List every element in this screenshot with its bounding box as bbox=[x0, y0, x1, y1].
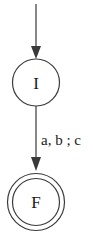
state-I-label: I bbox=[33, 74, 39, 93]
automaton-diagram: I a, b ; c F bbox=[0, 0, 93, 241]
initial-arrow bbox=[31, 4, 41, 59]
state-I[interactable]: I bbox=[13, 59, 60, 106]
state-F-label: F bbox=[31, 193, 40, 212]
transition-I-F[interactable]: a, b ; c bbox=[31, 106, 81, 171]
state-F[interactable]: F bbox=[8, 174, 65, 231]
transition-label: a, b ; c bbox=[41, 132, 81, 148]
